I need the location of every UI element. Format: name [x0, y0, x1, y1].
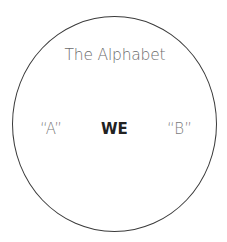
- label-b: “B”: [167, 119, 192, 139]
- label-a: “A”: [40, 119, 62, 139]
- label-we: WE: [101, 119, 128, 139]
- diagram-title: The Alphabet: [0, 46, 227, 64]
